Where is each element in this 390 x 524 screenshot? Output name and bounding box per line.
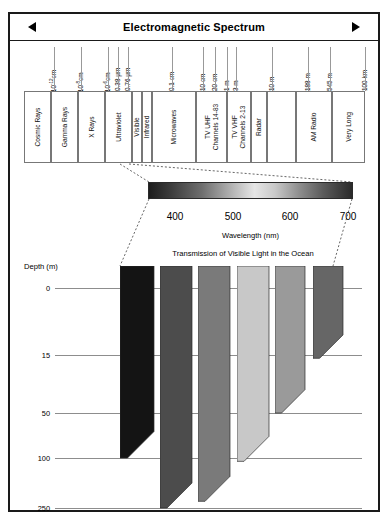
depth-tick-50: 50 bbox=[18, 409, 50, 418]
depth-bar-yellow[interactable] bbox=[237, 266, 271, 463]
depth-tick-250: 250 bbox=[18, 504, 50, 513]
depth-bar-orange[interactable] bbox=[275, 266, 307, 415]
depth-bar-red[interactable] bbox=[313, 266, 345, 360]
depth-bar-blue[interactable] bbox=[160, 266, 194, 510]
depth-tick-100: 100 bbox=[18, 454, 50, 463]
depth-tick-0: 0 bbox=[18, 284, 50, 293]
depth-bar-green[interactable] bbox=[198, 266, 232, 503]
gridline-250 bbox=[55, 508, 362, 509]
depth-bar-violet[interactable] bbox=[120, 266, 156, 460]
depth-tick-15: 15 bbox=[18, 351, 50, 360]
infographic-page: Electromagnetic Spectrum 10-12cm10-8cm10… bbox=[0, 0, 390, 524]
ocean-transmission-chart: 01550100250 bbox=[0, 0, 390, 524]
